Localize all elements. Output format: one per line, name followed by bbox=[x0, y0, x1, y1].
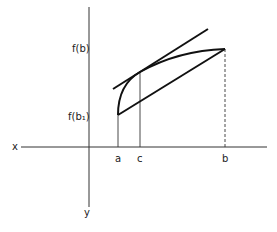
x-axis-label: x bbox=[12, 141, 18, 152]
y-axis-label: y bbox=[84, 207, 90, 218]
tangent-line bbox=[113, 29, 208, 89]
tick-label-c: c bbox=[137, 153, 143, 164]
tick-label-b: b bbox=[222, 153, 228, 164]
tick-label-a: a bbox=[115, 153, 121, 164]
value-label-fb: f(b) bbox=[72, 43, 90, 54]
mvt-diagram: x y a c b f(b) f(b₁) bbox=[0, 0, 277, 232]
value-label-fa: f(b₁) bbox=[68, 111, 90, 122]
